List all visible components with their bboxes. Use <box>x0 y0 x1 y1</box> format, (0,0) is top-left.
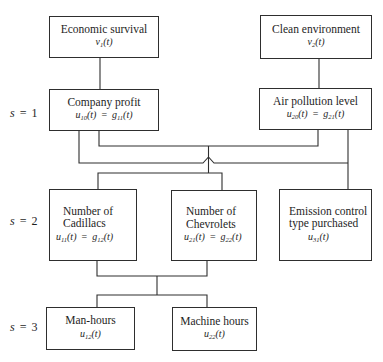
formula-equals: = <box>308 108 324 119</box>
formula-arg: (t) <box>104 231 113 242</box>
formula-arg: (t) <box>216 328 225 339</box>
node-company-profit: Company profit u10(t)=g11(t) <box>49 89 159 131</box>
level-eq: = <box>15 320 32 334</box>
node-title: Clean environment <box>272 23 360 36</box>
formula-equals: = <box>96 109 112 120</box>
node-emission-control-type: Emission control type purchased u31(t) <box>279 189 372 261</box>
node-number-of-chevrolets: Number of Chevrolets u21(t)=g22(t) <box>171 190 257 261</box>
edge-profit-to-emission-with-hop <box>79 131 348 163</box>
formula-arg: (t) <box>103 36 112 47</box>
level-value: 1 <box>31 106 37 120</box>
hierarchy-diagram: s=1 s=2 s=3 Economic survival v1(t) Clea… <box>0 0 383 362</box>
level-var: s <box>10 214 15 228</box>
level-eq: = <box>15 106 32 120</box>
formula-arg: (t) <box>123 109 132 120</box>
level-value: 3 <box>31 320 37 334</box>
node-formula: v1(t) <box>95 36 112 51</box>
node-title: Economic survival <box>61 23 148 36</box>
node-number-of-cadillacs: Number of Cadillacs u11(t)=g12(t) <box>49 189 137 261</box>
node-title-line-1: Number of <box>50 205 113 218</box>
level-eq: = <box>15 214 32 228</box>
node-man-hours: Man-hours u12(t) <box>46 307 135 350</box>
node-title: Man-hours <box>65 314 115 327</box>
node-machine-hours: Machine hours u22(t) <box>172 307 257 351</box>
node-formula: u11(t)=g12(t) <box>50 231 113 246</box>
edge-split-level3 <box>97 295 207 307</box>
formula-arg: (t) <box>92 328 101 339</box>
formula-arg: (t) <box>298 108 307 119</box>
node-formula: u20(t)=g21(t) <box>287 108 345 123</box>
node-economic-survival: Economic survival v1(t) <box>49 16 159 58</box>
edge-profit-pollution-bus <box>99 130 318 146</box>
formula-arg: (t) <box>320 231 329 242</box>
node-title: Machine hours <box>180 315 249 328</box>
node-formula: v2(t) <box>307 36 324 51</box>
formula-arg: (t) <box>196 231 205 242</box>
node-formula: u10(t)=g11(t) <box>75 109 132 124</box>
level-value: 2 <box>31 214 37 228</box>
level-label-3: s=3 <box>10 320 37 335</box>
formula-equals: = <box>205 231 221 242</box>
edge-split-level2 <box>98 173 222 190</box>
node-formula: u21(t)=g22(t) <box>172 231 242 246</box>
node-formula: u31(t) <box>280 231 329 246</box>
node-formula: u22(t) <box>204 328 225 343</box>
node-title-line-2: Chevrolets <box>172 218 236 231</box>
node-title-line-2: Cadillacs <box>50 217 106 230</box>
formula-arg: (t) <box>335 108 344 119</box>
formula-arg: (t) <box>232 231 241 242</box>
formula-equals: = <box>76 231 92 242</box>
formula-arg: (t) <box>87 109 96 120</box>
formula-arg: (t) <box>315 36 324 47</box>
node-air-pollution-level: Air pollution level u20(t)=g21(t) <box>259 88 372 130</box>
level-var: s <box>10 106 15 120</box>
node-title: Company profit <box>67 96 140 109</box>
level-var: s <box>10 320 15 334</box>
node-formula: u12(t) <box>80 328 101 343</box>
level-label-2: s=2 <box>10 214 37 229</box>
node-title-line-1: Number of <box>172 205 236 218</box>
edge-level2-join <box>97 261 207 276</box>
node-clean-environment: Clean environment v2(t) <box>260 15 372 59</box>
node-title-line-1: Emission control <box>280 205 367 218</box>
level-label-1: s=1 <box>10 106 37 121</box>
node-title-line-2: type purchased <box>280 217 358 230</box>
node-title: Air pollution level <box>273 95 358 108</box>
